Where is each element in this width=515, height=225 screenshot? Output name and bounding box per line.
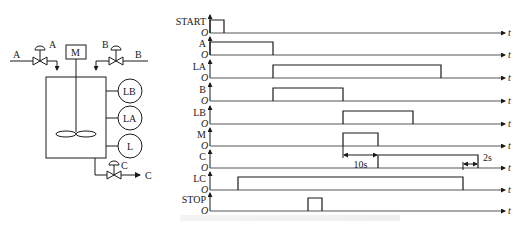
signal-pulse bbox=[210, 20, 224, 33]
time-label: t bbox=[508, 95, 511, 106]
signal-pulse bbox=[343, 111, 413, 124]
signal-row-lb: tOLB bbox=[193, 106, 511, 129]
signal-name: B bbox=[199, 84, 206, 95]
timing-diagram: tOSTARTtOAtOLAtOBtOLBtOMtOCtOLCtOSTOP10s… bbox=[176, 15, 511, 216]
signal-row-stop: tOSTOP bbox=[182, 193, 511, 216]
time-label: t bbox=[508, 184, 511, 195]
origin-label: O bbox=[201, 162, 208, 173]
agitator-blade-right bbox=[76, 131, 96, 137]
signal-row-lc: tOLC bbox=[193, 172, 511, 195]
time-label: t bbox=[508, 205, 511, 216]
valve-a-label: A bbox=[49, 39, 57, 50]
outlet-c-label: C bbox=[145, 170, 152, 181]
signal-name: START bbox=[176, 16, 206, 27]
signal-name: LA bbox=[193, 61, 207, 72]
time-label: t bbox=[508, 118, 511, 129]
inlet-a-label: A bbox=[13, 49, 21, 60]
time-label: t bbox=[508, 72, 511, 83]
signal-pulse bbox=[273, 65, 441, 78]
signal-pulse bbox=[210, 42, 273, 55]
signal-name: STOP bbox=[182, 194, 207, 205]
origin-label: O bbox=[201, 27, 208, 38]
signal-pulse bbox=[308, 198, 322, 211]
origin-label: O bbox=[201, 72, 208, 83]
figure: A A M B B LB LA L C C tOSTARTtOAtOLAtOBt… bbox=[0, 0, 515, 225]
signal-pulse bbox=[343, 133, 378, 146]
signal-row-la: tOLA bbox=[193, 60, 511, 83]
signal-name: LC bbox=[193, 173, 206, 184]
valve-c-label: C bbox=[121, 160, 128, 171]
valve-c-icon bbox=[107, 161, 121, 179]
duration-10s-label: 10s bbox=[354, 159, 368, 170]
signal-row-m: tOM bbox=[197, 128, 511, 151]
level-sensor-l-label: L bbox=[127, 141, 133, 152]
origin-label: O bbox=[201, 118, 208, 129]
origin-label: O bbox=[201, 49, 208, 60]
duration-2s-label: 2s bbox=[483, 152, 492, 163]
inlet-b-label: B bbox=[135, 49, 142, 60]
figure-caption bbox=[180, 215, 400, 221]
origin-label: O bbox=[201, 140, 208, 151]
signal-name: C bbox=[199, 151, 206, 162]
motor-label: M bbox=[71, 47, 80, 58]
level-sensor-la-label: LA bbox=[123, 113, 137, 124]
signal-name: M bbox=[197, 129, 206, 140]
signal-pulse bbox=[238, 177, 463, 190]
process-diagram bbox=[10, 45, 148, 179]
time-label: t bbox=[508, 27, 511, 38]
signal-row-b: tOB bbox=[199, 83, 511, 106]
time-label: t bbox=[508, 49, 511, 60]
signal-row-a: tOA bbox=[199, 37, 511, 60]
agitator-blade-left bbox=[56, 131, 76, 137]
valve-b-label: B bbox=[102, 39, 109, 50]
signal-name: LB bbox=[193, 107, 206, 118]
origin-label: O bbox=[201, 95, 208, 106]
valve-b-icon bbox=[109, 46, 123, 65]
time-label: t bbox=[508, 140, 511, 151]
time-label: t bbox=[508, 162, 511, 173]
signal-pulse bbox=[273, 88, 343, 101]
level-sensor-lb-label: LB bbox=[123, 86, 136, 97]
valve-a-icon bbox=[33, 46, 47, 65]
signal-name: A bbox=[199, 38, 207, 49]
signal-row-start: tOSTART bbox=[176, 15, 511, 38]
process-labels: A A M B B LB LA L C C bbox=[13, 39, 152, 181]
